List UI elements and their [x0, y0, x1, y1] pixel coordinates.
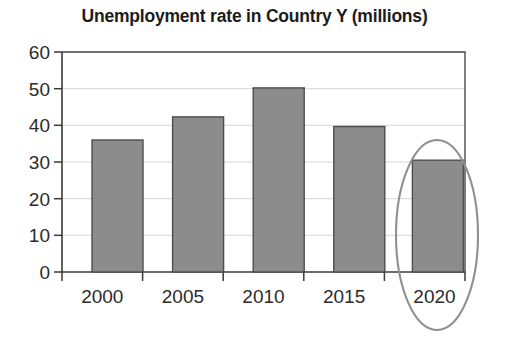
bar-2010: [253, 88, 304, 272]
xtick-label-2010: 2010: [242, 286, 284, 307]
xtick-label-2005: 2005: [162, 286, 204, 307]
bar-2005: [173, 117, 224, 272]
ytick-label-0: 0: [39, 262, 50, 283]
x-axis: [62, 272, 465, 281]
ytick-label-30: 30: [29, 152, 50, 173]
xtick-label-2000: 2000: [81, 286, 123, 307]
ytick-label-40: 40: [29, 115, 50, 136]
unemployment-bar-chart: Unemployment rate in Country Y (millions…: [0, 0, 509, 346]
bar-2015: [334, 127, 385, 273]
xtick-label-2020: 2020: [413, 286, 455, 307]
ytick-label-10: 10: [29, 225, 50, 246]
ytick-label-50: 50: [29, 79, 50, 100]
y-axis: 60 50 40 30 20 10 0: [29, 42, 62, 283]
bar-series: [92, 88, 463, 272]
x-tick-labels: 2000 2005 2010 2015 2020: [81, 286, 455, 307]
ytick-label-20: 20: [29, 189, 50, 210]
xtick-label-2015: 2015: [323, 286, 365, 307]
bar-2000: [92, 140, 143, 272]
ytick-label-60: 60: [29, 42, 50, 63]
bar-2020: [412, 160, 463, 272]
chart-plot-area: 60 50 40 30 20 10 0 2000: [0, 0, 509, 346]
